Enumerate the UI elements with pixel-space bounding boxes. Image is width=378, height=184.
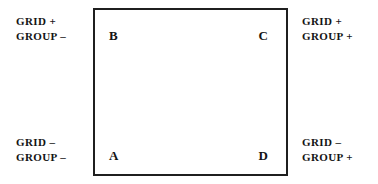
- label-bottom-right-grid: GRID –: [302, 135, 353, 150]
- corner-label-b: B: [109, 29, 118, 42]
- label-bottom-right: GRID – GROUP +: [302, 135, 353, 165]
- label-top-right: GRID + GROUP +: [302, 14, 353, 44]
- label-top-left-grid: GRID +: [16, 14, 66, 29]
- label-bottom-right-group: GROUP +: [302, 150, 353, 165]
- label-bottom-left-group: GROUP –: [16, 150, 66, 165]
- corner-label-d: D: [258, 149, 268, 162]
- corner-label-c: C: [258, 29, 268, 42]
- label-bottom-left: GRID – GROUP –: [16, 135, 66, 165]
- quadrant-box: B C A D: [93, 8, 288, 176]
- figure-canvas: B C A D GRID + GROUP – GRID + GROUP + GR…: [0, 0, 378, 184]
- label-bottom-left-grid: GRID –: [16, 135, 66, 150]
- corner-label-a: A: [109, 149, 119, 162]
- label-top-right-group: GROUP +: [302, 29, 353, 44]
- label-top-left-group: GROUP –: [16, 29, 66, 44]
- label-top-left: GRID + GROUP –: [16, 14, 66, 44]
- label-top-right-grid: GRID +: [302, 14, 353, 29]
